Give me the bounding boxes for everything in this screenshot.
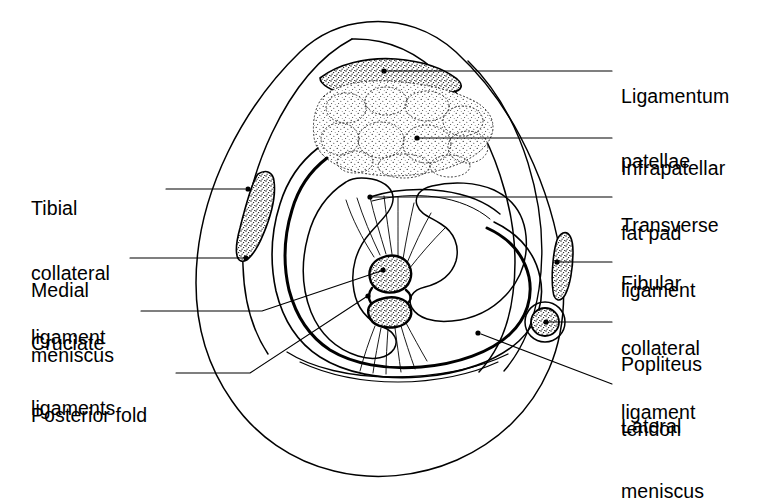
- label-posterior-fold: Posterior fold: [31, 362, 147, 448]
- label-line: Ligamentum: [621, 86, 729, 108]
- leader-dot-cruciate-ligaments: [380, 267, 385, 272]
- fibular-collateral-ligament-shape: [552, 233, 573, 300]
- posterior-cruciate-shape: [368, 297, 411, 327]
- leader-dot-medial-meniscus: [243, 255, 248, 260]
- label-line: Posterior fold: [31, 405, 147, 427]
- label-line: meniscus: [621, 481, 704, 502]
- label-line: Lateral: [621, 416, 704, 438]
- leader-dot-ligamentum-patellae: [381, 68, 386, 73]
- lateral-meniscus-path: [410, 183, 526, 321]
- leader-dot-popliteus-tendon: [543, 319, 548, 324]
- transverse-ligament-fibres-path: [372, 196, 490, 219]
- leader-dot-infrapatellar-fat-pad: [414, 135, 419, 140]
- leader-dot-transverse-ligament: [367, 194, 372, 199]
- infrapatellar-fat-pad-fill: [305, 75, 505, 185]
- tibial-collateral-ligament-shape: [236, 172, 274, 262]
- intercondylar-eminence-path: [406, 290, 411, 302]
- leader-dot-lateral-meniscus: [475, 330, 480, 335]
- label-line: Cruciate: [31, 333, 115, 355]
- label-lateral-meniscus: Lateral meniscus: [621, 373, 704, 502]
- leader-dot-tibial-collateral-ligament: [245, 186, 250, 191]
- label-line: Fibular: [621, 273, 700, 295]
- posterior-fold-inner-path: [300, 362, 498, 382]
- leader-dot-posterior-fold: [365, 293, 370, 298]
- leader-dot-fibular-collateral-ligament: [554, 259, 559, 264]
- leader-cruciate-ligaments: [141, 271, 381, 311]
- label-line: Tibial: [31, 198, 110, 220]
- anterior-cruciate-shape: [369, 256, 411, 293]
